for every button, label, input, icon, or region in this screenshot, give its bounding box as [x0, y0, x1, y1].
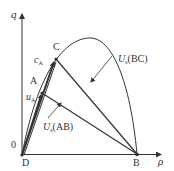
point-c	[54, 57, 57, 60]
c-a-label: cA	[34, 54, 43, 66]
vector-da	[22, 95, 41, 155]
u-a-label: uA	[26, 91, 36, 103]
rho-axis-label: ρ	[157, 155, 163, 167]
point-b-label: B	[133, 157, 140, 168]
us-ab-leader	[48, 103, 61, 118]
q-axis-label: q	[11, 8, 17, 20]
us-bc-label: Us(BC)	[118, 53, 148, 65]
point-c-label: C	[53, 41, 60, 52]
line-cb	[56, 59, 137, 154]
flow-density-diagram: q ρ 0 D A C B cA uA Us(BC) Us(AB)	[0, 0, 174, 171]
us-bc-leader	[91, 56, 112, 82]
point-a	[40, 91, 43, 94]
point-d-label: D	[22, 157, 29, 168]
us-ab-label: Us(AB)	[43, 121, 73, 133]
point-a-label: A	[30, 75, 38, 86]
point-b	[135, 153, 139, 157]
origin-label: 0	[11, 139, 16, 150]
